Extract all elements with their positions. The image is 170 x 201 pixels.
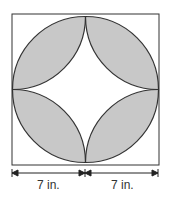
dimension-label-left: 7 in. bbox=[37, 178, 60, 192]
dimension-line bbox=[12, 169, 158, 177]
dimension-label-right: 7 in. bbox=[111, 178, 134, 192]
geometry-figure bbox=[0, 0, 170, 201]
